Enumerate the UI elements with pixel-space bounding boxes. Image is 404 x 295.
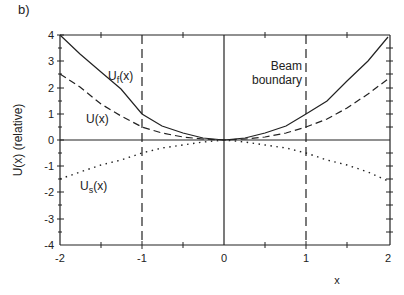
svg-text:4: 4 (48, 29, 54, 41)
label-us: Us(x) (80, 179, 107, 195)
svg-text:-4: -4 (44, 239, 54, 251)
svg-text:-2: -2 (44, 186, 54, 198)
svg-text:1: 1 (303, 252, 309, 264)
svg-text:-1: -1 (137, 252, 147, 264)
label-u: U(x) (86, 112, 109, 126)
svg-text:1: 1 (48, 108, 54, 120)
label-uf: Uf(x) (108, 69, 133, 85)
svg-text:2: 2 (385, 252, 391, 264)
chart: b) 4 3 2 (0, 0, 404, 295)
y-tick-labels: 4 3 2 1 0 -1 -2 -3 -4 (44, 29, 54, 251)
label-beam: Beam (271, 59, 302, 73)
svg-text:0: 0 (48, 134, 54, 146)
label-boundary: boundary (252, 73, 302, 87)
svg-text:0: 0 (221, 252, 227, 264)
x-tick-labels: -2 -1 0 1 2 (55, 252, 391, 264)
x-axis-label: x (334, 274, 340, 286)
svg-text:2: 2 (48, 82, 54, 94)
svg-text:-1: -1 (44, 160, 54, 172)
panel-label: b) (18, 2, 30, 17)
svg-text:-2: -2 (55, 252, 65, 264)
y-axis-label: U(x) (relative) (11, 104, 25, 177)
svg-text:3: 3 (48, 55, 54, 67)
svg-text:-3: -3 (44, 213, 54, 225)
